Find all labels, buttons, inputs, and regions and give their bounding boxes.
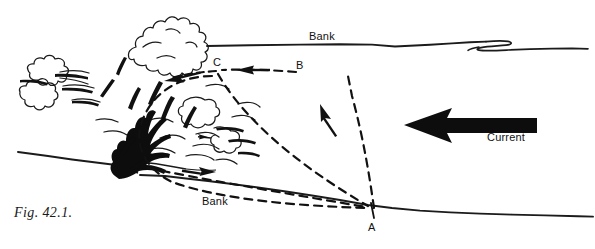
cast-arrow-a-to-b-icon: [320, 104, 337, 137]
label-point-a: A: [368, 222, 375, 233]
label-current: Current: [487, 132, 525, 143]
label-bank-far: Bank: [309, 31, 335, 42]
small-drift-arrow-icon: [198, 134, 211, 139]
cast-arrow-b-to-c-icon: [236, 66, 270, 75]
figure-drawing-canvas: [0, 0, 595, 249]
far-bank-line: [207, 41, 588, 51]
figure-illustration: Bank Bank Current A B C Fig. 42.1.: [0, 0, 595, 249]
figure-caption: Fig. 42.1.: [14, 206, 72, 220]
near-bank-line: [18, 152, 593, 217]
label-point-b: B: [296, 60, 303, 71]
label-bank-near: Bank: [202, 196, 228, 207]
retrieve-arrow-tree-to-a-icon: [182, 167, 216, 176]
label-point-c: C: [213, 57, 221, 68]
